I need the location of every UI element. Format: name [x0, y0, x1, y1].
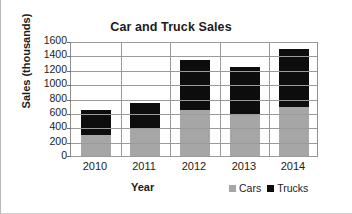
- y-axis-tick-label: 800: [27, 92, 67, 104]
- vertical-gridline: [269, 42, 270, 156]
- horizontal-gridline: [71, 128, 317, 129]
- bar-segment-trucks[interactable]: [279, 49, 309, 107]
- x-axis-tick-label: 2012: [171, 160, 217, 172]
- y-axis-tickmark: [67, 100, 71, 101]
- y-axis-tick-label: 1200: [27, 63, 67, 75]
- horizontal-gridline: [71, 42, 317, 43]
- horizontal-gridline: [71, 100, 317, 101]
- y-axis-tickmark: [67, 114, 71, 115]
- horizontal-gridline: [71, 85, 317, 86]
- y-axis-tickmark: [67, 42, 71, 43]
- vertical-gridline: [170, 42, 171, 156]
- horizontal-gridline: [71, 114, 317, 115]
- y-axis-tickmark: [67, 85, 71, 86]
- bar-segment-cars[interactable]: [180, 110, 210, 157]
- legend-swatch-icon: [229, 185, 236, 192]
- y-axis-tick-label: 400: [27, 120, 67, 132]
- y-axis-tick-label: 0: [27, 149, 67, 161]
- vertical-gridline: [121, 42, 122, 156]
- horizontal-gridline: [71, 71, 317, 72]
- legend-item-cars[interactable]: Cars: [229, 182, 261, 194]
- x-axis-tick-label: 2010: [72, 160, 118, 172]
- y-axis-tickmark: [67, 71, 71, 72]
- legend-swatch-icon: [267, 185, 274, 192]
- vertical-gridline: [220, 42, 221, 156]
- legend-label: Cars: [239, 182, 261, 194]
- y-axis-tick-label: 1000: [27, 77, 67, 89]
- y-axis-tick-label: 1600: [27, 34, 67, 46]
- x-axis-tick-label: 2013: [221, 160, 267, 172]
- y-axis-tickmark: [67, 156, 71, 157]
- bar-segment-cars[interactable]: [81, 135, 111, 157]
- legend-item-trucks[interactable]: Trucks: [267, 182, 308, 194]
- stacked-bar-chart: Car and Truck Sales Sales (thousands) 02…: [1, 0, 352, 214]
- bar-segment-trucks[interactable]: [130, 103, 160, 128]
- horizontal-gridline: [71, 156, 317, 157]
- y-axis-tick-label: 600: [27, 106, 67, 118]
- legend-label: Trucks: [277, 182, 308, 194]
- chart-title: Car and Truck Sales: [1, 20, 341, 34]
- plot-area: [70, 42, 318, 157]
- y-axis-tick-labels: 02004006008001000120014001600: [27, 41, 67, 157]
- y-axis-tickmark: [67, 56, 71, 57]
- y-axis-tickmark: [67, 143, 71, 144]
- chart-screenshot: Car and Truck Sales Sales (thousands) 02…: [0, 0, 352, 214]
- y-axis-tickmark: [67, 128, 71, 129]
- chart-legend: CarsTrucks: [229, 182, 308, 194]
- y-axis-tick-label: 200: [27, 135, 67, 147]
- bar-segment-cars[interactable]: [230, 114, 260, 157]
- horizontal-gridline: [71, 56, 317, 57]
- x-axis-title: Year: [131, 181, 154, 193]
- x-axis-tick-label: 2014: [270, 160, 316, 172]
- x-axis-tick-labels: 20102011201220132014: [70, 160, 318, 176]
- horizontal-gridline: [71, 143, 317, 144]
- bar-segment-trucks[interactable]: [230, 67, 260, 114]
- x-axis-tick-label: 2011: [121, 160, 167, 172]
- y-axis-tick-label: 1400: [27, 48, 67, 60]
